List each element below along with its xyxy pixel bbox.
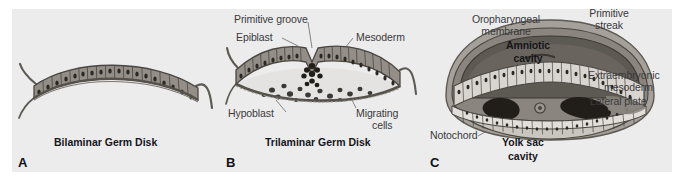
membrane-tail-lower-left xyxy=(226,84,236,104)
membrane-tail-right xyxy=(400,68,416,94)
label-primitive-groove: Primitive groove xyxy=(234,14,308,26)
membrane-tail-left xyxy=(227,48,238,68)
membrane-tail-left xyxy=(20,64,36,84)
panel-c-caption-line2: cavity xyxy=(508,150,538,162)
label-epiblast: Epiblast xyxy=(236,32,273,44)
label-amniotic-cavity-line1: Amniotic xyxy=(488,40,568,52)
label-hypoblast: Hypoblast xyxy=(228,108,274,120)
panel-a-illustration xyxy=(12,0,220,182)
label-mesoderm: Mesoderm xyxy=(356,32,405,44)
panel-a-caption: Bilaminar Germ Disk xyxy=(54,136,157,148)
label-oropharyngeal-membrane-line1: Oropharyngeal xyxy=(452,14,560,26)
label-migrating-cells-line1: Migrating xyxy=(356,108,398,120)
label-oropharyngeal-membrane-line2: membrane xyxy=(452,26,560,38)
label-primitive-streak-line2: streak xyxy=(574,20,644,32)
label-primitive-streak-line1: Primitive xyxy=(574,8,644,20)
panel-b-caption: Trilaminar Germ Disk xyxy=(265,136,371,148)
label-amniotic-cavity-line2: cavity xyxy=(488,53,568,65)
notochord-core xyxy=(538,106,542,110)
label-extraembryonic-mesoderm-line2: mesoderm xyxy=(604,82,653,94)
panel-a-bilaminar-germ-disk: Bilaminar Germ Disk A xyxy=(12,0,220,182)
panel-a-letter: A xyxy=(18,155,27,170)
panel-c-caption-line1: Yolk sac xyxy=(502,136,544,148)
panel-b-illustration xyxy=(220,0,430,182)
membrane-tail-lower-left xyxy=(19,98,34,118)
panel-b-trilaminar-germ-disk: Primitive groove Epiblast Mesoderm Hypob… xyxy=(220,0,430,182)
label-migrating-cells-line2: cells xyxy=(372,120,393,132)
panel-b-letter: B xyxy=(226,155,235,170)
label-notochord: Notochord xyxy=(430,130,478,142)
label-lateral-plate: Lateral plate xyxy=(590,96,647,108)
embryology-figure: Bilaminar Germ Disk A xyxy=(0,0,679,182)
panel-c-letter: C xyxy=(430,155,439,170)
panel-c-embryo-cross-section: Oropharyngeal membrane Primitive streak … xyxy=(430,0,672,182)
label-extraembryonic-mesoderm-line1: Extraembryonic xyxy=(588,70,660,82)
